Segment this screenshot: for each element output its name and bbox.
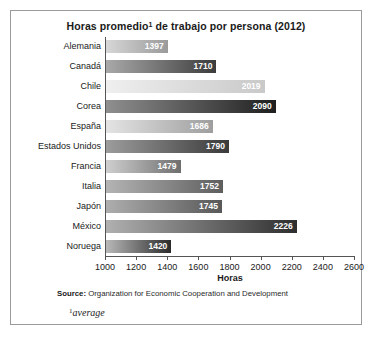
bar-value-label: 2019 (242, 80, 261, 93)
source-line: Source: Organization for Economic Cooper… (57, 289, 288, 298)
category-label: Estados Unidos (38, 140, 101, 153)
x-axis-tick (198, 256, 199, 260)
bar-value-label: 1790 (206, 140, 225, 153)
bar: 1745 (106, 200, 222, 213)
chart-title: Horas promedio1 de trabajo por persona (… (11, 20, 361, 32)
bar: 2090 (106, 100, 276, 113)
x-axis-tick (105, 256, 106, 260)
category-label: Italia (82, 180, 101, 193)
category-label: Francia (71, 160, 101, 173)
bar-value-label: 1745 (199, 200, 218, 213)
category-label: Japón (76, 200, 101, 213)
bar: 1710 (106, 60, 216, 73)
bar: 2226 (106, 220, 297, 233)
bar-value-label: 2090 (253, 100, 272, 113)
x-axis-tick (354, 256, 355, 260)
category-label: Corea (76, 100, 101, 113)
chart-title-footnote-marker: 1 (148, 21, 152, 28)
source-label: Source: (57, 289, 86, 298)
x-axis-tick (292, 256, 293, 260)
chart-title-rest: de trabajo por persona (2012) (152, 20, 305, 32)
category-label: Alemania (63, 40, 101, 53)
bar: 2019 (106, 80, 265, 93)
chart-figure: Horas promedio1 de trabajo por persona (… (10, 10, 362, 325)
category-label: España (70, 120, 101, 133)
x-axis-tick (230, 256, 231, 260)
bar-value-label: 2226 (274, 220, 293, 233)
bar: 1686 (106, 120, 213, 133)
bar-value-label: 1752 (200, 180, 219, 193)
bar: 1420 (106, 240, 171, 253)
plot-area: 100012001400160018002000220024002600 Ale… (105, 37, 354, 256)
bar: 1790 (106, 140, 229, 153)
bar-value-label: 1710 (194, 60, 213, 73)
x-axis-tick (136, 256, 137, 260)
bar-value-label: 1420 (148, 240, 167, 253)
x-axis-tick (261, 256, 262, 260)
x-axis-title: Horas (105, 273, 355, 283)
chart-title-main: Horas promedio (67, 20, 149, 32)
category-label: Noruega (66, 240, 101, 253)
bar: 1479 (106, 160, 181, 173)
bar-value-label: 1397 (145, 40, 164, 53)
bar: 1397 (106, 40, 168, 53)
category-label: México (72, 220, 101, 233)
x-axis-tick (167, 256, 168, 260)
bar-value-label: 1686 (190, 120, 209, 133)
footnote: 1average (69, 307, 105, 318)
category-label: Canadá (69, 60, 101, 73)
bar: 1752 (106, 180, 223, 193)
footnote-text: average (73, 307, 105, 318)
x-axis-tick-label: 2600 (334, 262, 374, 272)
source-text: Organization for Economic Cooperation an… (86, 289, 288, 298)
x-axis-tick (323, 256, 324, 260)
bar-value-label: 1479 (158, 160, 177, 173)
category-label: Chile (80, 80, 101, 93)
